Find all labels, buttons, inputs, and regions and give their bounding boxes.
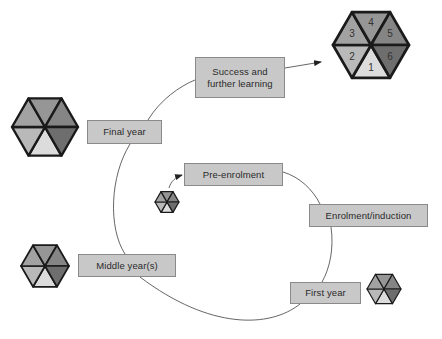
diagram-canvas: 123456 Pre-enrolment Enrolment/induction…: [0, 0, 442, 339]
stage-middle-years: Middle year(s): [78, 254, 176, 277]
stage-label: First year: [305, 287, 346, 299]
arrow-start-to-pre-enrolment: [169, 175, 182, 188]
stage-final-year: Final year: [87, 120, 162, 144]
stage-label: Middle year(s): [96, 260, 158, 272]
hex-segment-number: 3: [349, 28, 355, 39]
stage-label: Final year: [103, 126, 146, 138]
hex-segment-number: 1: [368, 62, 374, 73]
stage-label: Success and further learning: [207, 66, 273, 90]
hex-final-year-icon: [12, 98, 78, 155]
connector-enrolment-to-first-year: [322, 227, 332, 282]
hex-segment-number: 5: [387, 28, 393, 39]
stage-enrolment-induction: Enrolment/induction: [309, 204, 428, 227]
hex-segment-number: 6: [387, 51, 393, 62]
connector-final-year-to-success: [148, 80, 195, 120]
stage-first-year: First year: [290, 282, 361, 304]
hex-middle-years-icon: [21, 245, 69, 287]
connector-first-year-to-middle-years: [140, 277, 300, 320]
stage-label: Enrolment/induction: [326, 210, 412, 222]
connector-middle-years-to-final-year: [114, 144, 130, 254]
stage-success: Success and further learning: [195, 57, 285, 98]
connector-pre-enrolment-to-enrolment: [283, 172, 320, 204]
hex-pre-enrolment-icon: [155, 192, 179, 213]
hex-outcome-icon: 123456: [333, 12, 409, 78]
hex-segment-number: 4: [368, 17, 374, 28]
hexagon-layer: 123456: [12, 12, 409, 304]
stage-label: Pre-enrolment: [203, 169, 265, 181]
stage-pre-enrolment: Pre-enrolment: [184, 163, 283, 186]
hex-segment-number: 2: [349, 51, 355, 62]
arrow-success-to-outcome: [285, 62, 321, 68]
hex-first-year-icon: [367, 274, 401, 303]
